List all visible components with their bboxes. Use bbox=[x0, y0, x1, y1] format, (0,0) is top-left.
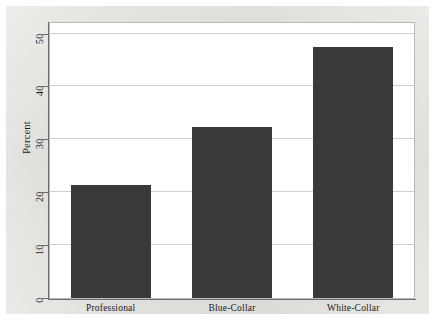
y-tick-label-wrap-30: 30 bbox=[0, 133, 39, 145]
y-tick-label-wrap-10: 10 bbox=[0, 239, 39, 251]
x-tick-label-blue-collar: Blue-Collar bbox=[171, 303, 292, 313]
x-tick-label-professional: Professional bbox=[50, 303, 171, 313]
plot-inner bbox=[50, 23, 414, 298]
bar-white-collar[interactable] bbox=[313, 47, 393, 298]
gridline-50 bbox=[50, 33, 414, 34]
y-tick-label-30: 30 bbox=[34, 139, 45, 149]
x-tick-label-white-collar: White-Collar bbox=[293, 303, 414, 313]
y-tick-label-10: 10 bbox=[34, 245, 45, 255]
y-tick-label-wrap-0: 0 bbox=[0, 292, 39, 304]
plot-area bbox=[49, 22, 415, 299]
y-tick-label-40: 40 bbox=[34, 86, 45, 96]
y-tick-label-0: 0 bbox=[34, 298, 45, 303]
bar-blue-collar[interactable] bbox=[192, 127, 272, 298]
y-tick-label-wrap-20: 20 bbox=[0, 186, 39, 198]
x-axis-line bbox=[48, 299, 416, 300]
y-tick-label-wrap-40: 40 bbox=[0, 80, 39, 92]
bar-professional[interactable] bbox=[71, 185, 151, 298]
y-tick-label-wrap-50: 50 bbox=[0, 28, 39, 40]
y-tick-label-20: 20 bbox=[34, 192, 45, 202]
chart-figure: Percent 01020304050 ProfessionalBlue-Col… bbox=[0, 0, 435, 323]
y-tick-label-50: 50 bbox=[34, 33, 45, 43]
